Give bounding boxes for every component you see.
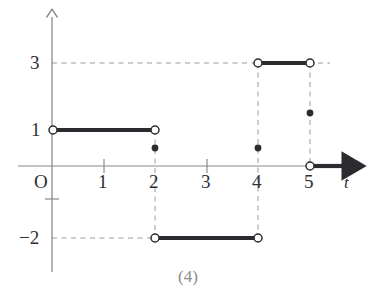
filled-point-at-5	[307, 110, 314, 117]
open-point-2-n2	[151, 234, 159, 242]
open-point-5-0	[306, 162, 314, 170]
axes	[18, 17, 352, 272]
open-point-0-1	[49, 126, 57, 134]
y-tick-label-minus-2: −2	[19, 228, 39, 247]
open-point-2-1	[151, 126, 159, 134]
x-tick-label-2: 2	[149, 172, 159, 191]
x-tick-label-3: 3	[201, 172, 211, 191]
figure-container: O 1 2 3 4 5 t 3 1 −2 (4)	[0, 0, 376, 297]
x-tick-label-4: 4	[252, 172, 262, 191]
filled-point-at-4	[255, 145, 262, 152]
open-point-4-3	[254, 59, 262, 67]
x-axis-label: t	[344, 174, 349, 191]
origin-label: O	[34, 172, 48, 191]
figure-caption: (4)	[0, 268, 376, 285]
y-tick-label-1: 1	[31, 120, 41, 139]
filled-point-at-2	[152, 145, 159, 152]
dashed-guides	[52, 63, 330, 240]
x-tick-label-1: 1	[98, 172, 108, 191]
y-tick-label-3: 3	[30, 53, 40, 72]
step-function-plot	[0, 0, 376, 297]
open-point-5-3	[306, 59, 314, 67]
filled-points	[152, 110, 314, 152]
x-tick-label-5: 5	[304, 172, 314, 191]
open-endpoints	[49, 59, 314, 242]
axis-ticks	[45, 159, 207, 199]
open-point-4-n2	[254, 234, 262, 242]
function-curve	[55, 63, 344, 238]
